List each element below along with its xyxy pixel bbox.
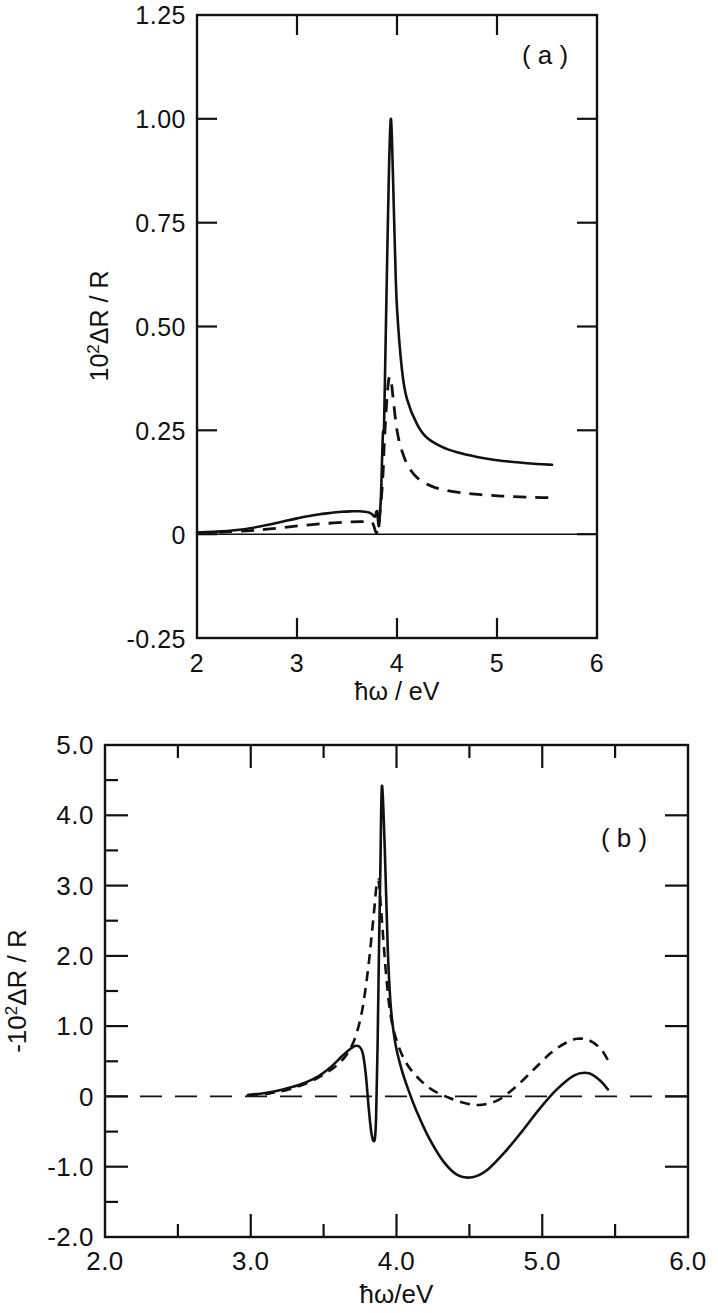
panel-b-curve-dashed [248, 880, 608, 1105]
panel-b-y-axis-title-prefix: -10 [2, 1015, 32, 1053]
panel-b-xtick-label-4: 6.0 [669, 1246, 707, 1276]
panel-b-ytick-label-3: 2.0 [56, 941, 94, 971]
panel-a-xtick-label-4: 6 [590, 649, 604, 677]
panel-a-ytick-label-2: 0.75 [135, 209, 186, 237]
panel-b-xtick-label-1: 3.0 [232, 1246, 270, 1276]
panel-b-ytick-label-2: 3.0 [56, 871, 94, 901]
panel-a-ytick-label-6: -0.25 [127, 625, 186, 653]
panel-b-ytick-label-5: 0 [79, 1082, 94, 1112]
panel-a: 1.25 1.00 0.75 0.50 0.25 0 -0.25 2 3 4 5… [0, 0, 718, 700]
panel-b-ytick-label-0: 5.0 [56, 730, 94, 760]
panel-b-x-axis-title: ħω/eV [360, 1279, 434, 1309]
panel-b-tag: ( b ) [601, 823, 647, 853]
figure-root: 1.25 1.00 0.75 0.50 0.25 0 -0.25 2 3 4 5… [0, 0, 718, 1313]
panel-a-ytick-label-0: 1.25 [135, 1, 186, 29]
panel-b-ytick-label-4: 1.0 [56, 1011, 94, 1041]
panel-a-x-ticks [297, 618, 497, 638]
panel-b-y-axis-title-exponent: 2 [2, 1006, 21, 1015]
panel-b-canvas: 5.0 4.0 3.0 2.0 1.0 0 -1.0 -2.0 2.0 3.0 … [0, 700, 718, 1313]
panel-b-svg-main: 5.0 4.0 3.0 2.0 1.0 0 -1.0 -2.0 2.0 3.0 … [0, 700, 718, 1313]
panel-b-y-ticks-minor [105, 780, 118, 1202]
panel-a-y-axis-title-suffix: ΔR / R [85, 271, 113, 345]
panel-b-y-ticks-right [665, 815, 688, 1166]
panel-a-tag: ( a ) [522, 40, 568, 70]
panel-b-y-axis-title-suffix: ΔR / R [2, 929, 32, 1006]
panel-a-curve-dashed [197, 377, 552, 533]
svg-text:-102ΔR / R: -102ΔR / R [2, 929, 32, 1053]
panel-a-svg: 1.25 1.00 0.75 0.50 0.25 0 -0.25 2 3 4 5… [0, 0, 718, 700]
panel-b-plot-frame [105, 745, 688, 1237]
panel-a-x-ticks-top [297, 15, 497, 35]
panel-a-y-axis-title-exponent: 2 [84, 344, 103, 353]
panel-a-ytick-label-4: 0.25 [135, 417, 186, 445]
panel-b-x-ticks-top [178, 745, 615, 768]
panel-b-curve-solid [248, 786, 608, 1178]
panel-b-xtick-label-3: 5.0 [523, 1246, 561, 1276]
panel-b-xtick-label-0: 2.0 [86, 1246, 124, 1276]
panel-a-xtick-label-1: 3 [290, 649, 304, 677]
panel-a-y-axis-title: 102ΔR / R [84, 271, 113, 382]
svg-text:102ΔR / R: 102ΔR / R [84, 271, 113, 382]
panel-a-ytick-label-1: 1.00 [135, 105, 186, 133]
panel-a-xtick-label-2: 4 [390, 649, 404, 677]
panel-a-curve-solid [197, 119, 552, 533]
panel-b-y-axis-title: -102ΔR / R [2, 929, 32, 1053]
panel-a-xtick-label-3: 5 [490, 649, 504, 677]
panel-b-xtick-label-2: 4.0 [378, 1246, 416, 1276]
panel-a-y-axis-title-prefix: 10 [85, 354, 113, 382]
panel-b-x-ticks [251, 1214, 543, 1237]
panel-a-y-ticks-right [577, 119, 597, 534]
panel-b-ytick-label-1: 4.0 [56, 800, 94, 830]
panel-b-ytick-label-6: -1.0 [47, 1152, 94, 1182]
panel-a-y-ticks [197, 119, 217, 534]
panel-a-ytick-label-3: 0.50 [135, 313, 186, 341]
panel-a-ytick-label-5: 0 [172, 521, 186, 549]
panel-a-xtick-label-0: 2 [190, 649, 204, 677]
